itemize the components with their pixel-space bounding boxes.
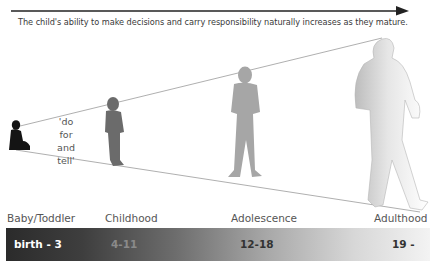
age-range-12-18: 12-18 — [240, 238, 274, 250]
stage-label-baby-toddler: Baby/Toddler — [7, 212, 75, 224]
quote-line: and — [51, 141, 81, 154]
age-range-birth-3: birth - 3 — [14, 238, 62, 250]
age-range-4-11: 4-11 — [111, 238, 137, 250]
child-silhouette-icon — [105, 97, 124, 166]
stage-label-childhood: Childhood — [105, 212, 158, 224]
do-for-and-tell-quote: 'do for and tell' — [51, 115, 81, 167]
quote-line: 'do for — [51, 115, 81, 141]
stage-label-adulthood: Adulthood — [374, 212, 428, 224]
quote-line: tell' — [51, 154, 81, 167]
progress-arrow-icon — [11, 6, 409, 16]
age-gradient-bar — [6, 228, 430, 261]
adult-silhouette-icon — [355, 38, 428, 210]
adolescent-silhouette-icon — [228, 67, 262, 178]
age-range-19-plus: 19 - — [392, 238, 415, 250]
caption-text: The child's ability to make decisions an… — [18, 17, 436, 27]
stage-label-adolescence: Adolescence — [231, 212, 297, 224]
